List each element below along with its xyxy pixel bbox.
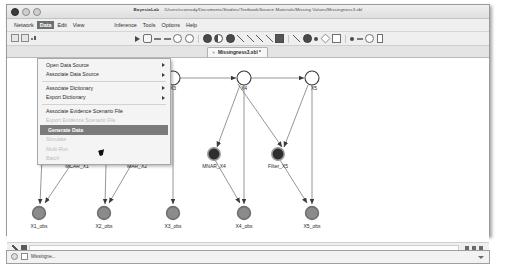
menu-item-associate-data-source[interactable]: Associate Data Source (38, 70, 170, 80)
network-canvas[interactable]: X1 X2 X3 X4 X5 MCAR_X1 MAR_X2 MNAR_X4 Fi… (7, 58, 489, 242)
window-title-app: BayesiaLab (134, 7, 159, 12)
node-x5[interactable] (305, 71, 319, 85)
node-x5-obs[interactable] (306, 207, 319, 220)
toolbar[interactable] (7, 32, 489, 46)
align-left-icon[interactable] (154, 38, 161, 40)
menu-options[interactable]: Options (158, 21, 183, 29)
bar-icon[interactable] (357, 38, 363, 40)
node-x4-obs[interactable] (238, 207, 251, 220)
ring-icon[interactable] (365, 34, 374, 43)
small-node-icon[interactable] (314, 37, 318, 41)
curve-link-icon[interactable] (247, 35, 254, 42)
toolbar-left-group[interactable] (11, 34, 37, 42)
application-window: BayesiaLab /Users/sconrady/Documents/Stu… (6, 4, 490, 236)
menu-edit[interactable]: Edit (54, 21, 69, 29)
menu-item-associate-evidence-scenario-file[interactable]: Associate Evidence Scenario File (38, 106, 170, 116)
erase-link-icon[interactable] (256, 35, 263, 42)
refresh-icon[interactable] (173, 34, 182, 43)
window-title: BayesiaLab /Users/sconrady/Documents/Stu… (7, 7, 489, 12)
taskbar[interactable]: Missingne... (6, 250, 490, 264)
node-label-x1-obs: X1_obs (31, 223, 48, 229)
diamond-node-icon[interactable] (320, 34, 330, 44)
menu-item-label: Batch (46, 155, 59, 161)
toolbar-group-nodes[interactable] (203, 34, 285, 43)
taskbar-item-missingness[interactable]: Missingne... (11, 253, 56, 260)
node-x1-obs[interactable] (33, 207, 46, 220)
menu-item-simulate: Simulate (38, 135, 170, 145)
menu-item-associate-dictionary[interactable]: Associate Dictionary (38, 83, 170, 93)
toolbar-group-shapes[interactable] (293, 34, 341, 43)
menu-item-label: Associate Data Source (46, 71, 99, 77)
run-icon[interactable] (135, 36, 140, 42)
chart-icon[interactable] (31, 34, 37, 40)
node-filter-x5[interactable] (272, 148, 284, 160)
window-title-path: /Users/sconrady/Documents/Studies/Textbo… (164, 7, 362, 12)
chevron-right-icon (162, 86, 165, 90)
toolbar-separator-2 (288, 35, 289, 43)
menu-help[interactable]: Help (183, 21, 200, 29)
toolbar-group-misc[interactable] (350, 34, 383, 43)
chevron-right-icon (162, 73, 165, 77)
node-x3-obs[interactable] (167, 207, 180, 220)
menu-bar[interactable]: Network Data Edit View Inference Tools O… (7, 19, 489, 32)
menu-view[interactable]: View (70, 21, 88, 29)
close-icon[interactable]: ✕ (212, 50, 215, 55)
node-label-x5-obs: X5_obs (304, 223, 321, 229)
menu-tools[interactable]: Tools (140, 21, 159, 29)
eraser-icon[interactable] (275, 34, 284, 43)
align-center-icon[interactable] (164, 38, 171, 40)
menu-item-export-evidence-scenario-file: Export Evidence Scenario File (38, 116, 170, 126)
menu-inference[interactable]: Inference (111, 21, 139, 29)
arrow-link-icon[interactable] (237, 35, 244, 42)
menu-item-label: Export Evidence Scenario File (46, 117, 116, 123)
observed-nodes[interactable] (33, 207, 319, 220)
chevron-right-icon (162, 63, 165, 67)
chevron-down-icon[interactable] (478, 256, 484, 259)
new-document-icon[interactable] (11, 34, 19, 42)
open-folder-icon[interactable] (21, 34, 29, 42)
document-tab-strip[interactable]: ✕ Missingness3.xbl * (7, 46, 489, 58)
menu-item-open-data-source[interactable]: Open Data Source (38, 60, 170, 70)
node-pair-icon[interactable] (214, 34, 223, 43)
node-label-mnar-x4: MNAR_X4 (202, 163, 226, 169)
node-filled-icon[interactable] (226, 34, 235, 43)
menu-item-export-dictionary[interactable]: Export Dictionary (38, 93, 170, 103)
title-bar[interactable]: BayesiaLab /Users/sconrady/Documents/Stu… (7, 5, 489, 19)
grid-icon[interactable] (143, 34, 152, 43)
toolbar-group-layout[interactable] (143, 34, 194, 43)
square-node-icon[interactable] (332, 34, 341, 43)
taskbar-item-label: Missingne... (31, 254, 56, 259)
node-mnar-x4[interactable] (208, 148, 220, 160)
menu-item-generate-data[interactable]: Generate Data (40, 125, 168, 135)
dot-icon[interactable] (350, 37, 354, 41)
document-tab-label: Missingness3.xbl * (218, 50, 261, 55)
menu-item-label: Open Data Source (46, 62, 89, 68)
menu-separator (42, 104, 166, 105)
node-x4[interactable] (237, 71, 251, 85)
menu-item-label: Multi-Run (46, 146, 68, 152)
menu-item-batch: Batch (38, 154, 170, 164)
diagonal-line-icon[interactable] (266, 35, 273, 42)
bracket-icon[interactable] (377, 34, 383, 43)
node-circle-icon[interactable] (203, 34, 212, 43)
menu-item-label: Associate Dictionary (46, 85, 93, 91)
node-x2-obs[interactable] (98, 207, 111, 220)
toolbar-separator-1 (198, 35, 199, 43)
screen: BayesiaLab /Users/sconrady/Documents/Stu… (0, 0, 505, 266)
window-icon (21, 253, 28, 260)
toolbar-main-group[interactable] (135, 34, 383, 43)
menu-item-label: Associate Evidence Scenario File (46, 108, 123, 114)
node-label-x4-obs: X4_obs (236, 223, 253, 229)
cursor-select-icon[interactable] (293, 35, 300, 42)
menu-data[interactable]: Data (37, 21, 55, 29)
document-tab[interactable]: ✕ Missingness3.xbl * (207, 47, 268, 57)
target-icon[interactable] (303, 34, 312, 43)
node-label-x3-obs: X3_obs (165, 223, 182, 229)
menu-network[interactable]: Network (11, 21, 37, 29)
menu-item-label: Generate Data (48, 127, 83, 133)
toolbar-separator-3 (345, 35, 346, 43)
node-label-x2-obs: X2_obs (96, 223, 113, 229)
menu-item-label: Simulate (46, 136, 66, 142)
undo-icon[interactable] (185, 34, 194, 43)
node-label-x5: X5 (311, 85, 317, 91)
